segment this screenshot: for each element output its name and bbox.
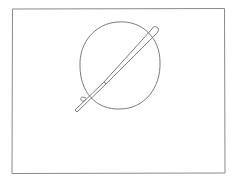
circle-shape xyxy=(80,22,160,109)
sketch-canvas xyxy=(0,0,232,180)
sketch-drawing xyxy=(0,0,232,180)
frame-border xyxy=(12,9,225,174)
